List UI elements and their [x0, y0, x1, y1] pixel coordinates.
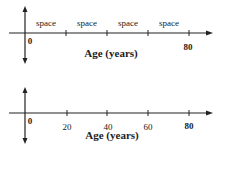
axis-title: Age (years) [84, 47, 137, 59]
axis-title: Age (years) [85, 129, 138, 141]
number-line-bottom: 0 20 40 60 80 Age (years) [0, 85, 227, 171]
tick-label-20: 20 [63, 122, 72, 132]
interval-label-3: space [118, 18, 138, 28]
tick-label-80: 80 [185, 121, 194, 131]
number-line-top: space space space space 0 80 Age (years) [0, 0, 227, 85]
interval-label-2: space [77, 18, 97, 28]
interval-label-4: space [159, 18, 179, 28]
axes-top [0, 0, 227, 85]
origin-label: 0 [28, 116, 33, 126]
tick-label-60: 60 [144, 122, 153, 132]
end-label: 80 [184, 42, 193, 52]
origin-label: 0 [28, 36, 33, 46]
interval-label-1: space [36, 18, 56, 28]
